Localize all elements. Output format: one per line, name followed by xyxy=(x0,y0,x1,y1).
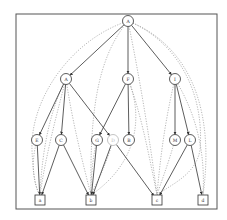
node-B: B xyxy=(124,135,135,146)
node-M: M xyxy=(170,135,181,146)
node-G: G xyxy=(92,135,103,146)
edge-root-A xyxy=(70,25,124,75)
node-E: E xyxy=(32,135,43,146)
node-label: D xyxy=(111,138,115,143)
node-A: A xyxy=(61,74,72,85)
node-root: A xyxy=(123,16,134,27)
dotted-edge xyxy=(128,21,201,195)
edge-C-b xyxy=(64,145,89,195)
node-label: M xyxy=(173,138,178,143)
node-C: C xyxy=(56,135,67,146)
edge-L-c xyxy=(160,145,188,195)
node-label: G xyxy=(95,138,99,143)
node-F: F xyxy=(123,74,134,85)
edge-I-L xyxy=(176,84,188,134)
node-c: c xyxy=(152,195,162,205)
node-L: L xyxy=(185,135,196,146)
diagram-frame xyxy=(16,14,217,209)
edge-root-I xyxy=(132,25,172,74)
node-label: d xyxy=(202,198,205,203)
solid-edges xyxy=(37,25,202,196)
dotted-edge xyxy=(128,21,157,195)
node-label: I xyxy=(174,77,176,82)
diagram-canvas: AAFIECGDBMLabcd xyxy=(0,0,227,220)
dotted-edge xyxy=(91,21,128,195)
dotted-edge xyxy=(66,79,91,195)
node-label: b xyxy=(90,198,93,203)
node-d: d xyxy=(198,195,208,205)
edge-F-B xyxy=(128,85,129,135)
node-label: E xyxy=(35,138,38,143)
edge-A-C xyxy=(61,85,65,135)
node-label: L xyxy=(189,138,192,143)
edge-C-a xyxy=(42,145,59,195)
dotted-edge xyxy=(157,140,175,195)
node-label: F xyxy=(126,77,129,82)
edge-F-G xyxy=(100,84,126,135)
edge-A-E xyxy=(39,84,63,135)
edge-L-d xyxy=(191,145,202,194)
node-I: I xyxy=(170,74,181,85)
edge-E-a xyxy=(37,146,39,195)
node-label: a xyxy=(39,198,42,203)
hierarchy-graph: AAFIECGDBMLabcd xyxy=(0,0,227,220)
node-b: b xyxy=(86,195,96,205)
dotted-edge xyxy=(128,21,206,195)
node-label: C xyxy=(59,138,63,143)
dotted-edges xyxy=(32,21,206,195)
node-a: a xyxy=(35,195,45,205)
node-D: D xyxy=(108,135,119,146)
